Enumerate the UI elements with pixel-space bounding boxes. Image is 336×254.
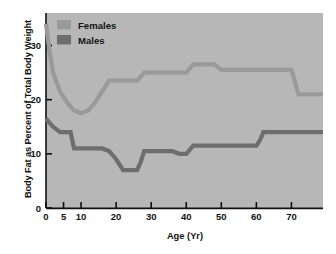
y-tick-label: 10 — [30, 148, 41, 159]
legend-label-males: Males — [78, 35, 105, 46]
x-tick-label: 5 — [61, 211, 67, 222]
legend-swatch-males — [57, 35, 71, 45]
x-tick-label: 20 — [111, 211, 122, 222]
x-tick-label: 0 — [43, 211, 48, 222]
chart-plot-svg: 0102030 0510203040506070 FemalesMales — [0, 0, 336, 254]
x-tick-label: 70 — [286, 211, 297, 222]
y-tick-label: 0 — [36, 203, 41, 214]
x-tick-label: 10 — [76, 211, 87, 222]
x-tick-label: 30 — [146, 211, 157, 222]
y-tick-label: 30 — [30, 40, 41, 51]
body-fat-line-chart-figure: Body Fat as Percent of Total Body Weight… — [0, 0, 336, 254]
legend-label-females: Females — [78, 20, 116, 31]
x-tick-label: 60 — [251, 211, 262, 222]
legend-swatch-females — [57, 20, 71, 30]
x-tick-label: 40 — [181, 211, 192, 222]
y-tick-label: 20 — [30, 94, 41, 105]
x-tick-label: 50 — [216, 211, 227, 222]
